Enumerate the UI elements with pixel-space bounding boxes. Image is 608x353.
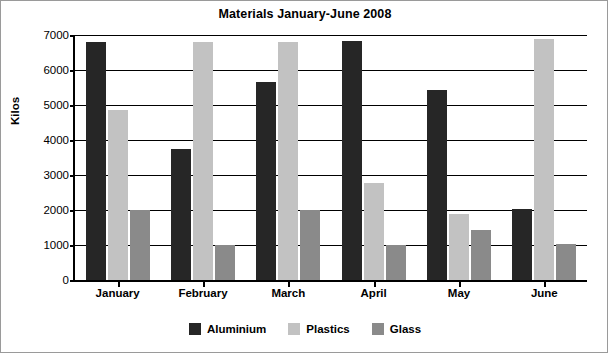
- x-axis-tick-label: June: [502, 287, 587, 299]
- bar-plastics-february: [193, 42, 213, 280]
- y-axis-tick-label: 5000: [43, 99, 69, 111]
- y-axis-tick: [70, 210, 75, 212]
- bar-group: [171, 35, 235, 280]
- bar-plastics-april: [364, 183, 384, 280]
- bar-aluminium-june: [512, 209, 532, 280]
- y-axis-tick: [70, 70, 75, 72]
- x-axis-tick: [544, 280, 546, 287]
- bar-aluminium-january: [86, 42, 106, 280]
- bar-glass-may: [471, 230, 491, 280]
- y-axis-tick: [70, 140, 75, 142]
- legend-swatch-aluminium: [189, 323, 201, 335]
- legend-swatch-plastics: [288, 323, 300, 335]
- bar-group: [86, 35, 150, 280]
- gridline: [75, 140, 587, 141]
- x-axis-tick-label: February: [160, 287, 245, 299]
- y-axis-tick-label: 6000: [43, 64, 69, 76]
- x-axis-tick-label: May: [416, 287, 501, 299]
- legend-item-aluminium: Aluminium: [189, 323, 266, 335]
- x-axis-tick: [459, 280, 461, 287]
- gridline: [75, 70, 587, 71]
- y-axis-tick-label: 7000: [43, 29, 69, 41]
- bar-group: [342, 35, 406, 280]
- x-axis-tick: [288, 280, 290, 287]
- y-axis-tick: [70, 35, 75, 37]
- y-axis-tick-label: 4000: [43, 134, 69, 146]
- chart-title: Materials January-June 2008: [1, 7, 608, 21]
- y-axis-tick: [70, 175, 75, 177]
- chart-legend: AluminiumPlasticsGlass: [1, 323, 608, 335]
- bar-glass-january: [130, 210, 150, 280]
- chart-container: Materials January-June 2008 Kilos 010002…: [0, 0, 608, 353]
- bar-plastics-march: [278, 42, 298, 280]
- gridline: [75, 175, 587, 176]
- bar-group: [512, 35, 576, 280]
- x-axis-tick-label: March: [246, 287, 331, 299]
- legend-item-plastics: Plastics: [288, 323, 349, 335]
- y-axis-tick: [70, 105, 75, 107]
- plot-area: 01000200030004000500060007000JanuaryFebr…: [73, 35, 587, 282]
- y-axis-tick: [70, 245, 75, 247]
- legend-label: Glass: [390, 323, 421, 335]
- x-axis-tick: [118, 280, 120, 287]
- bar-group: [256, 35, 320, 280]
- bar-glass-march: [300, 210, 320, 280]
- y-axis-tick-label: 1000: [43, 239, 69, 251]
- y-axis-tick-label: 2000: [43, 204, 69, 216]
- y-axis-tick: [70, 280, 75, 282]
- bar-aluminium-april: [342, 41, 362, 280]
- y-axis-tick-label: 3000: [43, 169, 69, 181]
- gridline: [75, 105, 587, 106]
- bar-glass-february: [215, 245, 235, 280]
- gridline: [75, 210, 587, 211]
- bar-aluminium-may: [427, 90, 447, 280]
- x-axis-tick: [203, 280, 205, 287]
- bar-aluminium-march: [256, 82, 276, 280]
- bar-plastics-may: [449, 214, 469, 280]
- bar-plastics-june: [534, 39, 554, 281]
- bar-plastics-january: [108, 110, 128, 280]
- legend-swatch-glass: [372, 323, 384, 335]
- bar-aluminium-february: [171, 149, 191, 280]
- bar-glass-june: [556, 244, 576, 280]
- y-axis-tick-label: 0: [63, 274, 69, 286]
- x-axis-tick-label: April: [331, 287, 416, 299]
- gridline: [75, 245, 587, 246]
- legend-label: Plastics: [306, 323, 349, 335]
- x-axis-tick: [374, 280, 376, 287]
- bar-group: [427, 35, 491, 280]
- x-axis-tick-label: January: [75, 287, 160, 299]
- legend-item-glass: Glass: [372, 323, 421, 335]
- gridline: [75, 35, 587, 36]
- bar-glass-april: [386, 245, 406, 280]
- y-axis-label: Kilos: [9, 97, 21, 125]
- legend-label: Aluminium: [207, 323, 266, 335]
